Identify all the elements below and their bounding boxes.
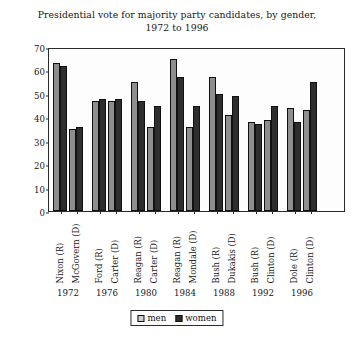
bar-women bbox=[216, 94, 223, 211]
candidate-label: Dukakis (D) bbox=[227, 233, 235, 283]
bar-women bbox=[99, 99, 106, 211]
x-axis-candidate-labels: Nixon (R)McGovern (D)Ford (R)Carter (D)R… bbox=[48, 215, 345, 283]
x-axis-year-labels: 1972197619801984198819921996 bbox=[48, 288, 345, 302]
bar-women bbox=[138, 101, 145, 211]
candidate-bar-pair bbox=[209, 49, 223, 211]
chart-title-line-1: Presidential vote for majority party can… bbox=[0, 9, 354, 22]
candidate-bar-pair bbox=[170, 49, 184, 211]
plot-area: % of voters 010203040506070 bbox=[48, 48, 345, 212]
year-group bbox=[53, 49, 83, 211]
candidate-bar-pair bbox=[131, 49, 145, 211]
year-group bbox=[92, 49, 122, 211]
bar-men bbox=[170, 59, 177, 211]
x-axis-tick-mark bbox=[272, 211, 273, 214]
bar-men bbox=[225, 115, 232, 211]
candidate-bar-pair bbox=[287, 49, 301, 211]
candidate-label: Dole (R) bbox=[289, 248, 297, 283]
year-label: 1976 bbox=[96, 288, 118, 298]
x-axis-tick-mark bbox=[116, 211, 117, 214]
chart-title: Presidential vote for majority party can… bbox=[0, 9, 354, 34]
candidate-label: Bush (R) bbox=[250, 246, 258, 283]
year-label: 1992 bbox=[252, 288, 274, 298]
bar-women bbox=[60, 66, 67, 211]
bar-men bbox=[53, 63, 60, 211]
bar-women bbox=[271, 106, 278, 211]
bar-women bbox=[154, 106, 161, 211]
candidate-bar-pair bbox=[53, 49, 67, 211]
bar-men bbox=[264, 120, 271, 211]
candidate-label: Clinton (D) bbox=[266, 236, 274, 283]
year-label: 1988 bbox=[213, 288, 235, 298]
candidate-label: Bush (R) bbox=[211, 246, 219, 283]
bar-men bbox=[186, 127, 193, 211]
bar-men bbox=[209, 77, 216, 211]
year-group bbox=[209, 49, 239, 211]
candidate-label: Ford (R) bbox=[94, 248, 102, 283]
candidate-label: Nixon (R) bbox=[55, 242, 63, 283]
candidate-bar-pair bbox=[147, 49, 161, 211]
legend-label-men: men bbox=[147, 313, 166, 323]
bar-men bbox=[108, 101, 115, 211]
candidate-label: Reagan (R) bbox=[172, 235, 180, 283]
legend-item-women: women bbox=[175, 313, 216, 323]
x-axis-tick-mark bbox=[100, 211, 101, 214]
bar-men bbox=[131, 82, 138, 211]
y-axis-tick-mark bbox=[46, 213, 49, 214]
candidate-bar-pair bbox=[69, 49, 83, 211]
year-label: 1972 bbox=[57, 288, 79, 298]
bar-women bbox=[310, 82, 317, 211]
x-axis-tick-mark bbox=[155, 211, 156, 214]
bar-women bbox=[294, 122, 301, 211]
candidate-label: Mondale (D) bbox=[188, 230, 196, 283]
legend-item-men: men bbox=[137, 313, 166, 323]
bar-women bbox=[193, 106, 200, 211]
chart-legend: men women bbox=[130, 310, 223, 326]
candidate-bar-pair bbox=[248, 49, 262, 211]
x-axis-tick-mark bbox=[61, 211, 62, 214]
x-axis-tick-mark bbox=[233, 211, 234, 214]
candidate-label: Carter (D) bbox=[149, 239, 157, 283]
x-axis-tick-mark bbox=[194, 211, 195, 214]
year-label: 1984 bbox=[174, 288, 196, 298]
x-axis-tick-mark bbox=[139, 211, 140, 214]
bar-men bbox=[69, 129, 76, 211]
legend-swatch-men-icon bbox=[137, 315, 144, 322]
bar-women bbox=[255, 124, 262, 211]
candidate-bar-pair bbox=[225, 49, 239, 211]
candidate-bar-pair bbox=[264, 49, 278, 211]
legend-swatch-women-icon bbox=[175, 315, 182, 322]
bar-women bbox=[177, 77, 184, 211]
candidate-bar-pair bbox=[303, 49, 317, 211]
year-group bbox=[170, 49, 200, 211]
candidate-bar-pair bbox=[108, 49, 122, 211]
year-group bbox=[248, 49, 278, 211]
x-axis-tick-mark bbox=[178, 211, 179, 214]
x-axis-tick-mark bbox=[256, 211, 257, 214]
bar-women bbox=[76, 127, 83, 211]
bar-men bbox=[287, 108, 294, 211]
bar-women bbox=[115, 99, 122, 211]
year-label: 1996 bbox=[291, 288, 313, 298]
bar-women bbox=[232, 96, 239, 211]
candidate-bar-pair bbox=[92, 49, 106, 211]
candidate-bar-pair bbox=[186, 49, 200, 211]
x-axis-tick-mark bbox=[77, 211, 78, 214]
bar-series-container bbox=[49, 49, 344, 211]
legend-label-women: women bbox=[185, 313, 216, 323]
candidate-label: McGovern (D) bbox=[71, 223, 79, 283]
bar-men bbox=[248, 122, 255, 211]
x-axis-tick-mark bbox=[311, 211, 312, 214]
x-axis-tick-mark bbox=[295, 211, 296, 214]
bar-men bbox=[92, 101, 99, 211]
year-label: 1980 bbox=[135, 288, 157, 298]
candidate-label: Carter (D) bbox=[110, 239, 118, 283]
bar-men bbox=[147, 127, 154, 211]
year-group bbox=[131, 49, 161, 211]
year-group bbox=[287, 49, 317, 211]
bar-men bbox=[303, 110, 310, 211]
candidate-label: Reagan (R) bbox=[133, 235, 141, 283]
x-axis-tick-mark bbox=[217, 211, 218, 214]
chart-title-line-2: 1972 to 1996 bbox=[0, 22, 354, 35]
candidate-label: Clinton (D) bbox=[305, 236, 313, 283]
chart-figure: Presidential vote for majority party can… bbox=[0, 0, 354, 351]
